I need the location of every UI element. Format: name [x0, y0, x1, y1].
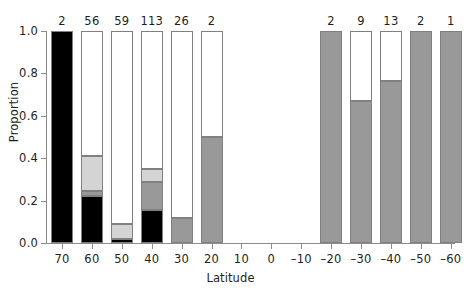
bar[interactable]: [51, 31, 73, 243]
y-tick-label: 0.0: [0, 236, 38, 250]
x-axis-title: Latitude: [0, 271, 461, 285]
bar-segment-white: [111, 31, 133, 224]
bar-segment-white: [380, 31, 402, 81]
y-tick-label: 0.6: [0, 109, 38, 123]
y-tick-label: 0.8: [0, 66, 38, 80]
bar-segment-dark-gray: [201, 137, 223, 243]
bar-segment-white: [171, 31, 193, 218]
bar-segment-dark-gray: [440, 31, 462, 243]
x-tick-mark: [451, 244, 452, 249]
bar-segment-light-gray: [141, 169, 163, 182]
y-tick-mark: [41, 73, 46, 74]
y-tick-label: 0.2: [0, 194, 38, 208]
x-tick-mark: [152, 244, 153, 249]
bar[interactable]: [440, 31, 462, 243]
bar[interactable]: [201, 31, 223, 243]
bar-segment-white: [201, 31, 223, 137]
bar-count-label: 2: [189, 14, 235, 28]
bar-segment-white: [350, 31, 372, 101]
y-tick-mark: [41, 116, 46, 117]
bar-segment-dark-gray: [141, 182, 163, 211]
bar-segment-black: [141, 210, 163, 243]
bar[interactable]: [141, 31, 163, 243]
bar-segment-dark-gray: [380, 81, 402, 243]
x-tick-mark: [92, 244, 93, 249]
x-tick-mark: [182, 244, 183, 249]
y-axis-line: [46, 31, 47, 244]
bar-segment-black: [51, 31, 73, 243]
bar-count-label: 1: [428, 14, 466, 28]
x-tick-mark: [361, 244, 362, 249]
y-tick-mark: [41, 201, 46, 202]
bar[interactable]: [111, 31, 133, 243]
bar-segment-black: [81, 196, 103, 243]
bar-segment-dark-gray: [81, 191, 103, 196]
y-tick-mark: [41, 158, 46, 159]
bar[interactable]: [81, 31, 103, 243]
x-tick-mark: [391, 244, 392, 249]
x-tick-mark: [271, 244, 272, 249]
x-tick-mark: [62, 244, 63, 249]
bar-segment-light-gray: [81, 156, 103, 191]
bar-segment-black: [111, 239, 133, 243]
bar-segment-dark-gray: [171, 218, 193, 243]
x-tick-mark: [301, 244, 302, 249]
bar[interactable]: [171, 31, 193, 243]
bar-segment-light-gray: [111, 224, 133, 239]
x-tick-mark: [421, 244, 422, 249]
x-tick-label: –60: [428, 252, 466, 266]
x-tick-mark: [241, 244, 242, 249]
x-tick-mark: [212, 244, 213, 249]
y-tick-mark: [41, 31, 46, 32]
bar-segment-dark-gray: [410, 31, 432, 243]
bar[interactable]: [320, 31, 342, 243]
x-tick-mark: [122, 244, 123, 249]
bar-segment-white: [141, 31, 163, 169]
x-axis-line: [46, 243, 455, 244]
bar-segment-white: [81, 31, 103, 156]
y-tick-label: 1.0: [0, 24, 38, 38]
bar[interactable]: [410, 31, 432, 243]
bar-segment-dark-gray: [350, 101, 372, 243]
bar[interactable]: [380, 31, 402, 243]
x-tick-mark: [331, 244, 332, 249]
bar-segment-dark-gray: [320, 31, 342, 243]
y-tick-label: 0.4: [0, 151, 38, 165]
bar[interactable]: [350, 31, 372, 243]
